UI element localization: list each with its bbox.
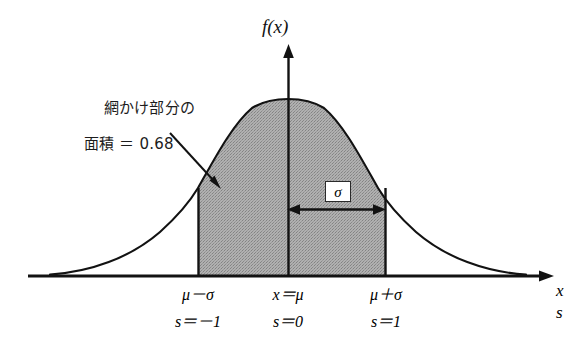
s-axis-label: s: [556, 303, 563, 323]
tick-label-plus-sigma: μ＋σ s＝1: [370, 281, 402, 332]
y-axis-label: f(x): [262, 16, 288, 38]
tick-minus-sigma-s: s＝－1: [175, 308, 221, 332]
annotation-line-2: 面積 ＝ 0.68: [84, 136, 195, 154]
tick-mu-s: s＝0: [272, 308, 303, 332]
tick-mu-x: x＝μ: [272, 281, 303, 305]
tick-label-mu: x＝μ s＝0: [272, 281, 303, 332]
shaded-area-region: [198, 90, 386, 277]
x-axis-label: x: [556, 281, 564, 301]
tick-plus-sigma-s: s＝1: [370, 308, 402, 332]
x-axis-arrowhead: [539, 270, 554, 281]
shaded-area-annotation: 網かけ部分の 面積 ＝ 0.68: [84, 82, 195, 189]
annotation-line-1: 網かけ部分の: [104, 99, 195, 117]
y-axis-arrowhead: [283, 44, 294, 58]
tick-minus-sigma-x: μ－σ: [175, 281, 221, 305]
tick-label-minus-sigma: μ－σ s＝－1: [175, 281, 221, 332]
sigma-label: σ: [325, 181, 351, 202]
tick-plus-sigma-x: μ＋σ: [370, 281, 402, 305]
normal-distribution-figure: 網かけ部分の 面積 ＝ 0.68 f(x) σ μ－σ s＝－1 x＝μ s＝0…: [0, 0, 586, 341]
